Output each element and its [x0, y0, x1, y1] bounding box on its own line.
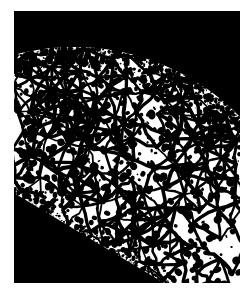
micrograph-figure: [14, 11, 240, 283]
micrograph-image: [14, 11, 240, 283]
micrograph-page: [0, 0, 248, 298]
